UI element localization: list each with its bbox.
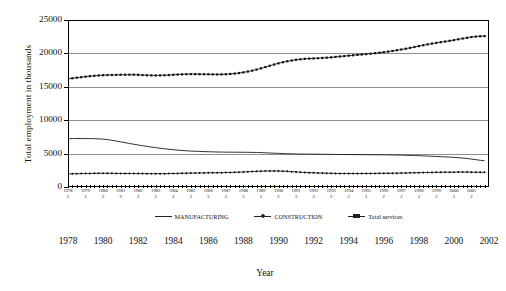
x-axis-quarter-labels: 1978219792198021981219822198321984219852…	[68, 188, 489, 210]
x-quarter-tick	[129, 185, 130, 188]
square-marker-icon	[348, 213, 365, 219]
x-quarter-tick	[235, 185, 236, 188]
x-quarter-tick	[309, 185, 310, 188]
x-quarter-tick	[318, 185, 319, 188]
x-quarter-tick	[81, 185, 82, 188]
y-tick-label: 15000	[2, 81, 62, 91]
x-quarter-tick	[322, 185, 323, 188]
x-quarter-tick	[450, 185, 451, 188]
x-quarter-tick	[401, 185, 402, 188]
x-quarter-tick	[208, 185, 209, 188]
x-quarter-tick	[138, 185, 139, 188]
x-axis-title: Year	[0, 268, 506, 278]
x-quarter-tick	[366, 185, 367, 188]
x-quarter-tick	[265, 185, 266, 188]
x-quarter-tick	[248, 185, 249, 188]
x-quarter-tick	[327, 185, 328, 188]
x-year-label: 2002	[469, 236, 506, 246]
x-year-label: 2000	[434, 236, 474, 246]
x-quarter-tick	[261, 185, 262, 188]
x-quarter-tick	[230, 185, 231, 188]
x-year-label: 1994	[329, 236, 369, 246]
x-quarter-tick	[397, 185, 398, 188]
line-marker-icon	[155, 213, 172, 219]
x-quarter-tick	[147, 185, 148, 188]
x-quarter-tick	[336, 185, 337, 188]
legend-item[interactable]: Total services	[348, 213, 402, 220]
x-quarter-tick	[178, 185, 179, 188]
x-quarter-tick	[379, 185, 380, 188]
x-quarter-tick	[103, 185, 104, 188]
x-year-label: 1988	[223, 236, 263, 246]
x-quarter-tick	[204, 185, 205, 188]
x-quarter-tick	[72, 185, 73, 188]
x-quarter-tick	[125, 185, 126, 188]
y-tick-label: 20000	[2, 47, 62, 57]
x-quarter-tick	[388, 185, 389, 188]
x-quarter-tick	[357, 185, 358, 188]
legend-label: CONSTRUCTION	[274, 213, 322, 220]
x-year-label: 1998	[399, 236, 439, 246]
x-quarter-tick	[156, 185, 157, 188]
x-quarter-tick	[393, 185, 394, 188]
x-quarter-tick	[116, 185, 117, 188]
plot-border	[68, 20, 489, 187]
x-quarter-tick	[164, 185, 165, 188]
x-quarter-tick	[243, 185, 244, 188]
x-quarter-tick	[300, 185, 301, 188]
legend-label: MANUFACTURING	[175, 213, 229, 220]
x-quarter-tick	[143, 185, 144, 188]
x-quarter-tick	[436, 185, 437, 188]
x-quarter-tick	[86, 185, 87, 188]
diamond-marker-icon	[254, 213, 271, 219]
x-quarter-tick	[305, 185, 306, 188]
x-quarter-tick	[428, 185, 429, 188]
x-quarter-tick	[441, 185, 442, 188]
legend-item[interactable]: CONSTRUCTION	[254, 213, 322, 220]
x-quarter-tick	[121, 185, 122, 188]
x-quarter-tick	[445, 185, 446, 188]
x-quarter-tick	[182, 185, 183, 188]
x-year-label: 1982	[118, 236, 158, 246]
legend-item[interactable]: MANUFACTURING	[155, 213, 229, 220]
x-quarter-tick	[173, 185, 174, 188]
x-quarter-tick	[340, 185, 341, 188]
x-quarter-tick	[331, 185, 332, 188]
x-quarter-tick	[314, 185, 315, 188]
x-quarter-tick	[134, 185, 135, 188]
x-year-label: 1996	[364, 236, 404, 246]
x-quarter-tick	[371, 185, 372, 188]
x-tick-label: 20012	[458, 188, 484, 200]
x-quarter-tick	[252, 185, 253, 188]
x-quarter-tick	[458, 185, 459, 188]
x-axis-title-text: Year	[256, 268, 273, 278]
x-quarter-tick	[274, 185, 275, 188]
x-quarter-tick	[419, 185, 420, 188]
x-quarter-tick	[279, 185, 280, 188]
x-quarter-tick	[471, 185, 472, 188]
x-quarter-tick	[195, 185, 196, 188]
x-quarter-tick	[375, 185, 376, 188]
x-quarter-tick	[239, 185, 240, 188]
chart-legend: MANUFACTURINGCONSTRUCTIONTotal services	[68, 209, 489, 223]
x-quarter-tick	[349, 185, 350, 188]
x-year-label: 1980	[83, 236, 123, 246]
y-tick-label: 0	[2, 181, 62, 191]
y-axis-title: Total employment in thousands	[23, 14, 33, 194]
x-year-label: 1978	[48, 236, 88, 246]
x-year-label: 1990	[259, 236, 299, 246]
x-quarter-tick	[151, 185, 152, 188]
x-quarter-tick	[94, 185, 95, 188]
x-axis-year-labels: 1978198019821984198619881990199219941996…	[68, 236, 489, 252]
x-quarter-tick	[226, 185, 227, 188]
x-quarter-tick	[257, 185, 258, 188]
y-tick-label: 5000	[2, 148, 62, 158]
x-quarter-tick	[270, 185, 271, 188]
x-quarter-tick	[467, 185, 468, 188]
x-year-label: 1992	[294, 236, 334, 246]
x-quarter-tick	[107, 185, 108, 188]
x-quarter-tick	[485, 185, 486, 188]
x-quarter-tick	[99, 185, 100, 188]
x-quarter-tick	[77, 185, 78, 188]
plot-area	[68, 20, 489, 187]
